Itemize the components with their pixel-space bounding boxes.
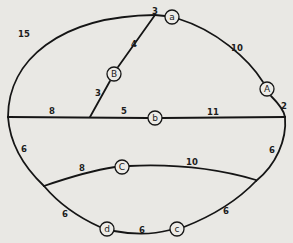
weight-B-upper: 4 xyxy=(131,39,137,49)
node-c: c xyxy=(170,222,184,236)
weight-mid-to-b: 5 xyxy=(121,106,127,116)
edge-left-top-arc xyxy=(8,15,155,117)
edge-c-to-arc xyxy=(184,181,256,227)
node-a: a xyxy=(165,10,179,24)
edge-b-to-right xyxy=(162,117,285,118)
weight-d-to-c: 6 xyxy=(139,225,145,235)
weight-right-lower-arc: 6 xyxy=(269,145,275,155)
weight-top-to-a: 3 xyxy=(152,6,158,16)
weight-mid-left: 8 xyxy=(49,106,55,116)
node-A: A xyxy=(260,82,274,96)
weight-left-top-arc: 15 xyxy=(18,29,30,39)
edge-mid-left-to-b xyxy=(8,117,148,118)
node-A-label: A xyxy=(264,84,271,94)
edge-B-lower xyxy=(90,81,110,117)
node-C: C xyxy=(115,160,129,174)
weight-b-to-right: 11 xyxy=(207,107,219,117)
edge-C-to-chord xyxy=(129,166,256,180)
weight-C-to-chord: 10 xyxy=(186,157,198,167)
node-d: d xyxy=(100,222,114,236)
weight-chord-to-C: 8 xyxy=(79,163,85,173)
node-C-label: C xyxy=(119,162,125,172)
edge-arc-to-d xyxy=(44,186,100,227)
weight-a-to-A: 10 xyxy=(231,43,243,53)
weight-arc-to-d: 6 xyxy=(62,209,68,219)
node-B-label: B xyxy=(111,69,117,79)
weight-left-lower-arc: 6 xyxy=(21,144,27,154)
node-c-label: c xyxy=(175,224,180,234)
edge-a-to-A xyxy=(179,19,263,82)
node-a-label: a xyxy=(169,12,175,22)
weight-B-lower: 3 xyxy=(95,88,101,98)
node-d-label: d xyxy=(104,224,110,234)
node-B: B xyxy=(107,67,121,81)
weight-A-to-right: 2 xyxy=(281,101,287,111)
weight-c-to-arc: 6 xyxy=(223,206,229,216)
graph-diagram: a A B b C c d 15 3 10 2 4 3 8 5 11 6 6 8… xyxy=(0,0,293,243)
node-b: b xyxy=(148,111,162,125)
node-b-label: b xyxy=(152,113,158,123)
